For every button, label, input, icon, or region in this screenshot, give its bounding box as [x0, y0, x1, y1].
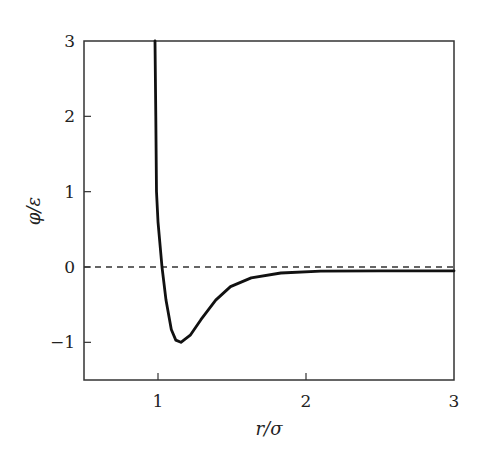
x-axis-label: r/σ	[256, 418, 284, 439]
y-tick-label: 0	[64, 257, 75, 277]
y-tick-label: 1	[64, 182, 75, 202]
y-ticks: −10123	[50, 31, 91, 352]
y-tick-label: 2	[64, 106, 75, 126]
y-axis-label: φ/ε	[23, 197, 44, 225]
potential-chart: 123 −10123 r/σ φ/ε	[0, 0, 485, 461]
y-tick-label: 3	[64, 31, 75, 51]
y-tick-label: −1	[50, 332, 75, 352]
x-ticks: 123	[153, 373, 460, 411]
x-tick-label: 2	[301, 391, 312, 411]
x-tick-label: 1	[153, 391, 164, 411]
x-tick-label: 3	[449, 391, 460, 411]
potential-curve	[155, 41, 454, 342]
plot-frame	[84, 41, 454, 380]
